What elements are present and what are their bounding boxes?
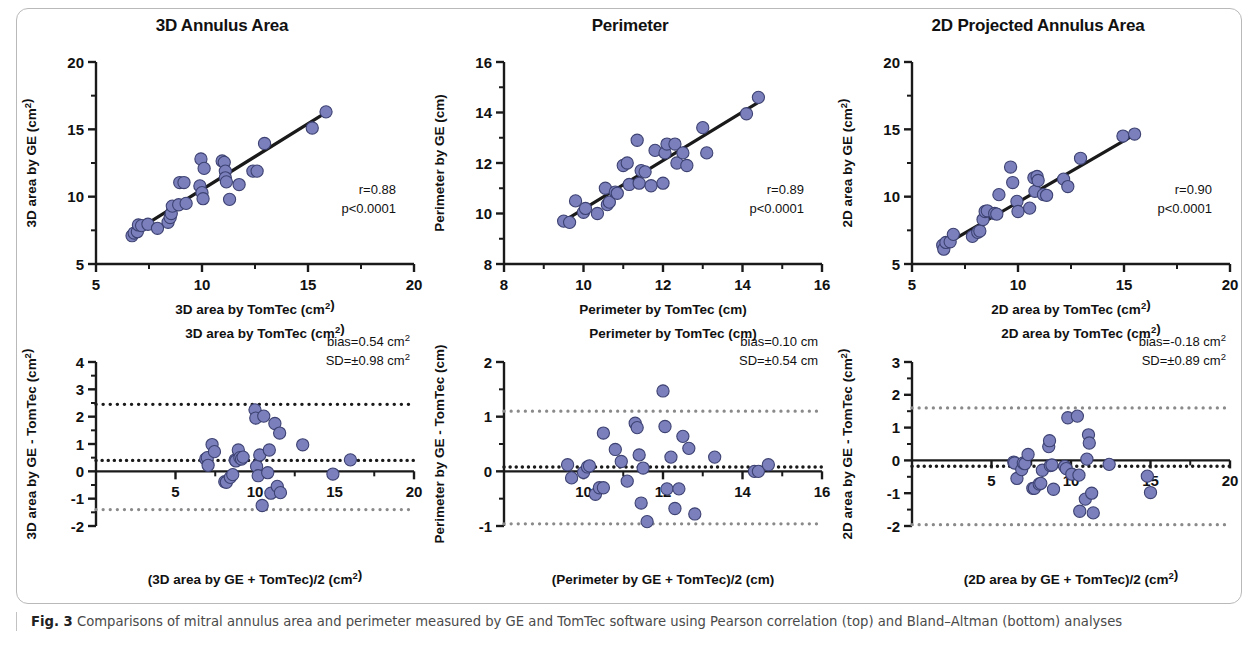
svg-text:2: 2	[484, 354, 492, 371]
panel-corr-perimeter: Perimeter 810121416810121416r=0.89p<0.00…	[426, 10, 834, 322]
svg-text:5: 5	[892, 256, 900, 273]
svg-text:r=0.89: r=0.89	[767, 182, 804, 197]
svg-text:-1: -1	[887, 485, 900, 502]
figure-panel-grid: 3D Annulus Area 51015205101520r=0.88p<0.…	[18, 10, 1240, 604]
chart-corr-perimeter: 810121416810121416r=0.89p<0.0001Perimete…	[426, 10, 834, 322]
svg-text:2D area by GE - TomTec (cm2): 2D area by GE - TomTec (cm2)	[835, 349, 855, 540]
svg-text:15: 15	[300, 276, 317, 293]
svg-text:3D area by GE (cm2): 3D area by GE (cm2)	[19, 98, 39, 227]
svg-text:0: 0	[484, 463, 492, 480]
svg-text:5: 5	[76, 256, 84, 273]
svg-text:20: 20	[1222, 472, 1239, 489]
svg-text:2: 2	[892, 386, 900, 403]
svg-text:-1: -1	[479, 518, 492, 535]
svg-text:5: 5	[92, 276, 100, 293]
svg-text:0: 0	[76, 463, 84, 480]
panel-ba-2d-projected-annulus-area: -2-101235101520bias=-0.18 cm2SD=±0.89 cm…	[834, 322, 1242, 604]
svg-text:10: 10	[575, 276, 592, 293]
chart-corr-3d-annulus-area: 51015205101520r=0.88p<0.00013D area by T…	[18, 10, 426, 322]
svg-text:20: 20	[883, 54, 900, 71]
svg-text:14: 14	[734, 483, 751, 500]
svg-text:p<0.0001: p<0.0001	[341, 201, 396, 216]
chart-corr-2d-projected-annulus-area: 51015205101520r=0.90p<0.00012D area by T…	[834, 10, 1242, 322]
svg-text:20: 20	[1222, 276, 1239, 293]
chart-ba-perimeter: -101210121416bias=0.10 cmSD=±0.54 cm(Per…	[426, 322, 834, 604]
panel-ba-3d-annulus-area: -2-1012345101520bias=0.54 cm2SD=±0.98 cm…	[18, 322, 426, 604]
chart-ba-3d-annulus-area: -2-1012345101520bias=0.54 cm2SD=±0.98 cm…	[18, 322, 426, 604]
svg-text:8: 8	[484, 256, 492, 273]
svg-text:2: 2	[76, 408, 84, 425]
svg-text:15: 15	[67, 121, 84, 138]
figure-caption: Fig. 3 Comparisons of mitral annulus are…	[16, 612, 1236, 631]
svg-text:2D area by GE (cm2): 2D area by GE (cm2)	[835, 98, 855, 227]
panel-ba-perimeter: -101210121416bias=0.10 cmSD=±0.54 cm(Per…	[426, 322, 834, 604]
svg-text:10: 10	[1010, 276, 1027, 293]
svg-text:4: 4	[76, 354, 85, 371]
svg-text:1: 1	[76, 436, 84, 453]
svg-text:16: 16	[475, 54, 492, 71]
svg-text:3: 3	[892, 354, 900, 371]
svg-text:p<0.0001: p<0.0001	[1157, 201, 1212, 216]
caption-text: Fig. 3 Comparisons of mitral annulus are…	[31, 612, 1236, 631]
svg-text:SD=±0.98 cm2: SD=±0.98 cm2	[326, 351, 410, 368]
svg-text:SD=±0.54 cm: SD=±0.54 cm	[739, 353, 818, 368]
svg-text:3D area by GE - TomTec (cm2): 3D area by GE - TomTec (cm2)	[19, 349, 39, 540]
svg-text:1: 1	[892, 419, 900, 436]
svg-text:(2D area by GE + TomTec)/2 (cm: (2D area by GE + TomTec)/2 (cm2)	[964, 567, 1179, 587]
svg-text:5: 5	[908, 276, 916, 293]
svg-text:3D area by TomTec (cm2): 3D area by TomTec (cm2)	[175, 297, 334, 317]
panel-corr-2d-projected-annulus-area: 2D Projected Annulus Area 51015205101520…	[834, 10, 1242, 322]
caption-label: Fig. 3	[31, 614, 73, 629]
chart-ba-2d-projected-annulus-area: -2-101235101520bias=-0.18 cm2SD=±0.89 cm…	[834, 322, 1242, 604]
svg-text:10: 10	[67, 188, 84, 205]
svg-text:5: 5	[171, 483, 179, 500]
panel-title-perimeter: Perimeter	[426, 16, 834, 36]
svg-text:p<0.0001: p<0.0001	[749, 201, 804, 216]
svg-text:SD=±0.89 cm2: SD=±0.89 cm2	[1142, 351, 1226, 368]
svg-text:-2: -2	[887, 518, 900, 535]
svg-text:-2: -2	[71, 518, 84, 535]
svg-text:Perimeter by GE - TomTec (cm): Perimeter by GE - TomTec (cm)	[432, 344, 447, 543]
svg-text:Perimeter by GE (cm): Perimeter by GE (cm)	[432, 94, 447, 231]
svg-text:20: 20	[406, 276, 423, 293]
svg-text:(3D area by GE + TomTec)/2 (cm: (3D area by GE + TomTec)/2 (cm2)	[148, 567, 363, 587]
svg-text:15: 15	[326, 483, 343, 500]
svg-text:5: 5	[987, 472, 995, 489]
svg-text:16: 16	[814, 483, 831, 500]
svg-text:Perimeter by TomTec (cm): Perimeter by TomTec (cm)	[579, 302, 747, 317]
svg-text:10: 10	[883, 188, 900, 205]
svg-text:8: 8	[500, 276, 508, 293]
svg-text:16: 16	[814, 276, 831, 293]
svg-text:3D area by TomTec (cm2): 3D area by TomTec (cm2)	[185, 322, 344, 341]
svg-text:10: 10	[194, 276, 211, 293]
svg-text:14: 14	[475, 104, 492, 121]
svg-text:Perimeter by TomTec (cm): Perimeter by TomTec (cm)	[589, 326, 757, 341]
svg-text:r=0.90: r=0.90	[1175, 182, 1212, 197]
svg-text:14: 14	[734, 276, 751, 293]
svg-text:20: 20	[67, 54, 84, 71]
svg-text:3: 3	[76, 381, 84, 398]
svg-text:-1: -1	[71, 490, 84, 507]
svg-text:12: 12	[655, 276, 672, 293]
svg-text:10: 10	[475, 205, 492, 222]
panel-title-3d-annulus-area: 3D Annulus Area	[18, 16, 426, 36]
svg-text:2D area by TomTec (cm2): 2D area by TomTec (cm2)	[991, 297, 1150, 317]
caption-body: Comparisons of mitral annulus area and p…	[73, 614, 1122, 629]
svg-text:(Perimeter by GE + TomTec)/2 (: (Perimeter by GE + TomTec)/2 (cm)	[552, 572, 775, 587]
svg-text:1: 1	[484, 408, 492, 425]
svg-text:15: 15	[1116, 276, 1133, 293]
svg-text:15: 15	[883, 121, 900, 138]
svg-text:20: 20	[406, 483, 423, 500]
svg-text:0: 0	[892, 452, 900, 469]
svg-text:r=0.88: r=0.88	[359, 182, 396, 197]
svg-text:12: 12	[475, 155, 492, 172]
svg-text:10: 10	[247, 483, 264, 500]
panel-title-2d-projected-annulus-area: 2D Projected Annulus Area	[834, 16, 1242, 36]
panel-corr-3d-annulus-area: 3D Annulus Area 51015205101520r=0.88p<0.…	[18, 10, 426, 322]
svg-text:2D area by TomTec (cm2): 2D area by TomTec (cm2)	[1001, 322, 1160, 341]
